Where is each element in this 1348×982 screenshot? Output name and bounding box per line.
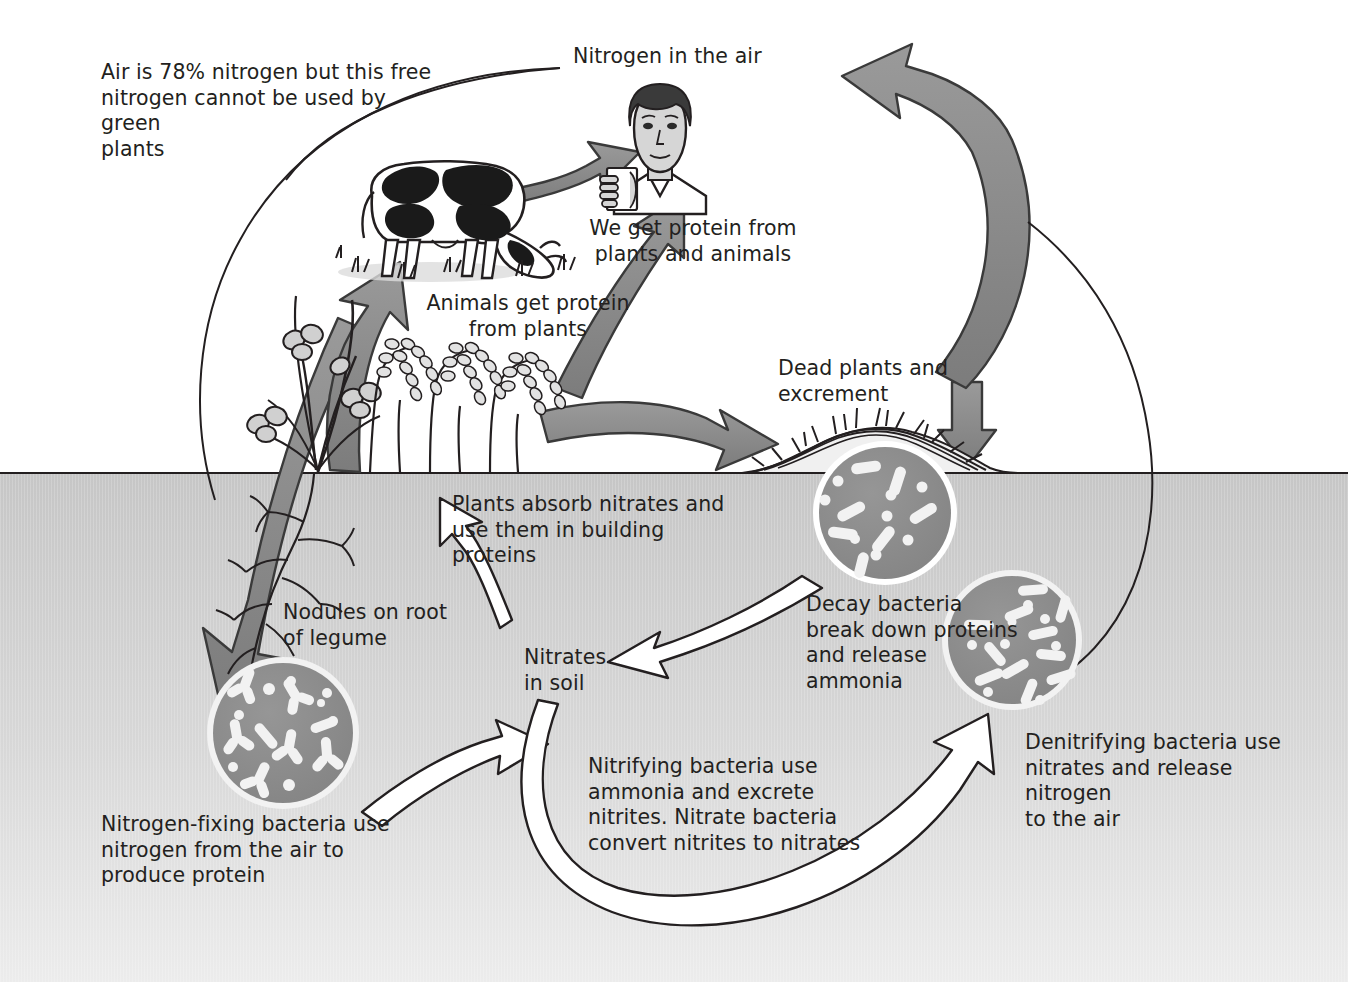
nitrogen-fixing-bacteria-circle	[207, 657, 359, 809]
grain-plants-illustration	[370, 337, 567, 472]
label-decay-bacteria: Decay bacteria break down proteins and r…	[806, 592, 1036, 694]
label-animals-get-protein: Animals get protein from plants	[408, 291, 648, 342]
label-nitrogen-fixing-bacteria: Nitrogen-fixing bacteria use nitrogen fr…	[101, 812, 431, 889]
label-nodules-on-root: Nodules on root of legume	[283, 600, 503, 651]
decay-bacteria-circle	[813, 441, 957, 585]
nitrogen-cycle-diagram: Air is 78% nitrogen but this free nitrog…	[0, 0, 1348, 982]
label-plants-absorb: Plants absorb nitrates and use them in b…	[452, 492, 742, 569]
label-nitrifying-bacteria: Nitrifying bacteria use ammonia and excr…	[588, 754, 888, 856]
label-nitrogen-in-air: Nitrogen in the air	[573, 44, 833, 70]
label-we-get-protein: We get protein from plants and animals	[578, 216, 808, 267]
label-air-note: Air is 78% nitrogen but this free nitrog…	[101, 60, 441, 162]
cow-illustration	[336, 161, 575, 282]
arrow-plants-to-dead-matter	[540, 402, 778, 470]
label-dead-plants: Dead plants and excrement	[778, 356, 998, 407]
label-nitrates-in-soil: Nitrates in soil	[524, 645, 674, 696]
arrow-denitrifying-to-air	[842, 44, 1029, 388]
label-denitrifying-bacteria: Denitrifying bacteria use nitrates and r…	[1025, 730, 1325, 832]
